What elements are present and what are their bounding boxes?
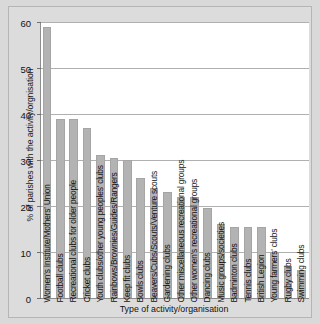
x-tick-label: Other women's recreational groups	[190, 179, 198, 302]
plot-area: 0102030405060 Women's Institute/Mothers'…	[40, 22, 309, 299]
x-tick-label: Women's Institute/Mothers' Union	[42, 184, 50, 302]
bar-slot[interactable]: Other women's recreational groups	[188, 22, 201, 298]
bar-slot[interactable]: Swimming clubs	[296, 22, 309, 298]
y-tick-label: 10	[20, 248, 31, 259]
bar-slot[interactable]: Young farmers' clubs	[269, 22, 282, 298]
x-tick-label: Music groups/societies	[216, 222, 224, 302]
bar-slot[interactable]: Cricket clubs	[81, 22, 94, 298]
x-tick-label: Keep fit clubs	[123, 255, 131, 302]
x-tick-label: Dancing clubs	[203, 252, 211, 302]
bar-slot[interactable]: Youth clubs/other young peoples' clubs	[95, 22, 108, 298]
y-tick-label: 40	[20, 110, 31, 121]
y-axis-title: % of parishes with the activity/orgnisat…	[25, 10, 35, 280]
bar-slot[interactable]: Beavers/Cubs/Scouts/Venture scouts	[148, 22, 161, 298]
x-tick-label: Other miscellaneous recreational groups	[176, 159, 184, 302]
x-tick-label: Football clubs	[56, 253, 64, 302]
bar-slot[interactable]: British Legion	[255, 22, 268, 298]
y-tick-label: 0	[26, 294, 31, 305]
bar-series: Women's Institute/Mothers' UnionFootball…	[41, 22, 309, 298]
bar-slot[interactable]: Rugby clubs	[282, 22, 295, 298]
y-tick-label: 60	[20, 18, 31, 29]
y-tick-label: 30	[20, 156, 31, 167]
bar-slot[interactable]: Rainbows/Brownies/Guides/Rangers	[108, 22, 121, 298]
bar-slot[interactable]: Dancing clubs	[202, 22, 215, 298]
x-tick-label: Recreational clubs for older people	[69, 180, 77, 302]
x-tick-label: Rugby clubs	[283, 258, 291, 302]
bar-slot[interactable]: Women's Institute/Mothers' Union	[41, 22, 54, 298]
x-tick-label: Rainbows/Brownies/Guides/Rangers	[109, 172, 117, 302]
y-tick-label: 50	[20, 64, 31, 75]
y-tick-label: 20	[20, 202, 31, 213]
bar-slot[interactable]: Badminton clubs	[229, 22, 242, 298]
x-tick-label: Beavers/Cubs/Scouts/Venture scouts	[149, 171, 157, 302]
bar-slot[interactable]: Bowls clubs	[135, 22, 148, 298]
bar-chart: % of parishes with the activity/orgnisat…	[0, 0, 320, 324]
x-tick-label: Youth clubs/other young peoples' clubs	[96, 165, 104, 302]
bar-slot[interactable]: Keep fit clubs	[121, 22, 134, 298]
x-axis-title: Type of activity/organisation	[40, 304, 308, 314]
x-tick-label: Tennis clubs	[243, 258, 251, 302]
x-tick-label: Gardening clubs	[163, 244, 171, 302]
bar-slot[interactable]: Football clubs	[54, 22, 67, 298]
bar-slot[interactable]: Other miscellaneous recreational groups	[175, 22, 188, 298]
x-tick-label: Badminton clubs	[230, 243, 238, 302]
y-tick-mark: 0	[37, 298, 41, 299]
x-tick-label: British Legion	[257, 254, 265, 302]
x-tick-label: Bowls clubs	[136, 260, 144, 302]
x-tick-label: Cricket clubs	[82, 257, 90, 302]
x-tick-label: Young farmers' clubs	[270, 228, 278, 302]
bar-slot[interactable]: Music groups/societies	[215, 22, 228, 298]
x-tick-label: Swimming clubs	[297, 244, 305, 302]
bar-slot[interactable]: Recreational clubs for older people	[68, 22, 81, 298]
bar-slot[interactable]: Gardening clubs	[162, 22, 175, 298]
bar-slot[interactable]: Tennis clubs	[242, 22, 255, 298]
